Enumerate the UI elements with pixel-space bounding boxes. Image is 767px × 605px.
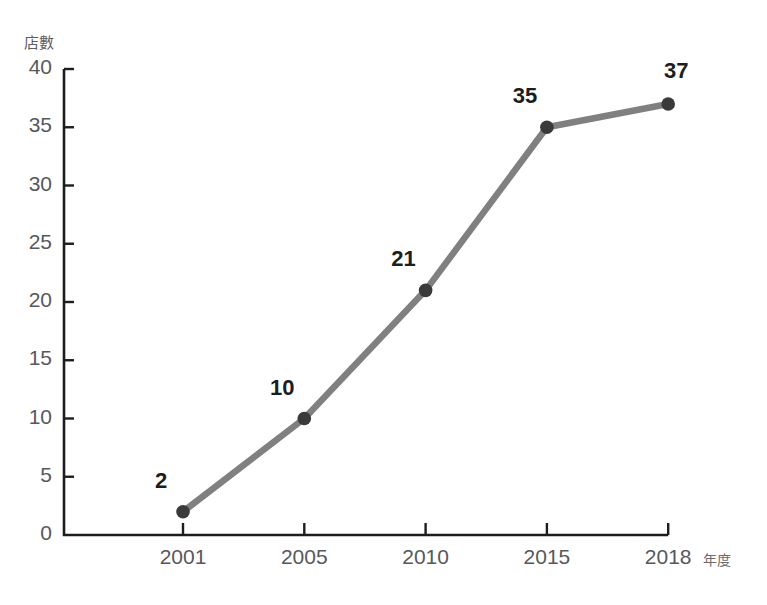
x-axis-tick-label: 2015 <box>502 545 592 569</box>
x-axis-tick-label: 2010 <box>381 545 471 569</box>
y-axis-tick-label: 20 <box>8 288 52 312</box>
y-axis-tick-label: 5 <box>8 463 52 487</box>
x-axis-tick-label: 2018 <box>623 545 713 569</box>
y-axis-tick-label: 15 <box>8 346 52 370</box>
data-point-marker[interactable] <box>661 97 675 111</box>
line-chart: 店數 年度 0510152025303540200120052010201520… <box>0 0 767 605</box>
data-point-marker[interactable] <box>540 120 554 134</box>
data-point-value-label: 35 <box>490 83 560 109</box>
y-axis-tick-label: 10 <box>8 405 52 429</box>
data-point-value-label: 10 <box>247 375 317 401</box>
data-point-marker[interactable] <box>298 412 312 426</box>
data-point-marker[interactable] <box>176 505 190 519</box>
y-axis-tick-label: 25 <box>8 230 52 254</box>
y-axis-tick-label: 30 <box>8 172 52 196</box>
data-point-value-label: 2 <box>126 468 196 494</box>
chart-plot-area <box>0 0 767 605</box>
y-axis-tick-label: 40 <box>8 55 52 79</box>
y-axis-tick-label: 35 <box>8 113 52 137</box>
y-axis-tick-label: 0 <box>8 521 52 545</box>
data-point-value-label: 37 <box>641 58 711 84</box>
axis-lines <box>64 69 668 535</box>
data-point-marker[interactable] <box>419 284 433 298</box>
data-series-line <box>183 104 668 512</box>
data-point-value-label: 21 <box>369 246 439 272</box>
x-axis-tick-label: 2001 <box>138 545 228 569</box>
x-axis-tick-label: 2005 <box>259 545 349 569</box>
